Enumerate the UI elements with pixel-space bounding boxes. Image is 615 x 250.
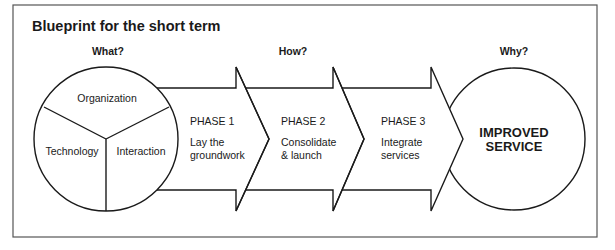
phase-1-desc-line1: Lay the bbox=[190, 136, 225, 148]
segment-organization: Organization bbox=[77, 92, 137, 104]
phase-1-desc-line2: groundwork bbox=[190, 149, 246, 161]
phase-3-label: PHASE 3 bbox=[381, 115, 426, 127]
phase-3-desc-line1: Integrate bbox=[381, 136, 423, 148]
segment-interaction: Interaction bbox=[116, 145, 165, 157]
heading-what: What? bbox=[92, 45, 124, 57]
phase-2-desc-line2: & launch bbox=[281, 149, 322, 161]
heading-how: How? bbox=[279, 45, 308, 57]
phase-2-label: PHASE 2 bbox=[281, 115, 326, 127]
heading-why: Why? bbox=[500, 45, 529, 57]
diagram-title: Blueprint for the short term bbox=[32, 18, 221, 34]
phase-3-desc-line2: services bbox=[381, 149, 420, 161]
segment-technology: Technology bbox=[45, 145, 99, 157]
goal-line1: IMPROVED bbox=[479, 125, 548, 140]
phase-1-label: PHASE 1 bbox=[190, 115, 235, 127]
blueprint-diagram: Blueprint for the short term What? How? … bbox=[0, 0, 615, 250]
phase-2-desc-line1: Consolidate bbox=[281, 136, 337, 148]
goal-line2: SERVICE bbox=[486, 139, 543, 154]
